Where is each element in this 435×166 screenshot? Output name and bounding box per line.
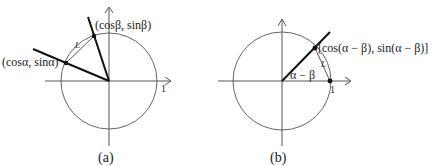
point-one-zero — [328, 79, 333, 84]
point-label-b: [cos(α − β), sin(α − β)] — [318, 41, 428, 55]
unit-label-b: 1 — [330, 84, 335, 95]
point-alpha-minus-beta — [313, 46, 318, 51]
angle-label-b: α − β — [290, 68, 315, 82]
point-alpha-label: (cosα, sinα) — [2, 55, 59, 69]
chord-label-a: L — [74, 40, 80, 50]
point-beta-label: (cosβ, sinβ) — [95, 18, 151, 32]
caption-a: (a) — [98, 150, 114, 166]
unit-label-a: 1 — [161, 83, 166, 94]
point-beta — [92, 34, 96, 38]
figure-b: [cos(α − β), sin(α − β)] α − β L 1 (b) — [218, 19, 428, 166]
diagram-canvas: (cosα, sinα) (cosβ, sinβ) L 1 (a) [cos(α… — [0, 0, 435, 166]
caption-b: (b) — [270, 150, 287, 166]
point-alpha — [64, 61, 68, 65]
chord-label-b: L — [320, 59, 326, 69]
figure-a: (cosα, sinα) (cosβ, sinβ) L 1 (a) — [2, 7, 171, 166]
